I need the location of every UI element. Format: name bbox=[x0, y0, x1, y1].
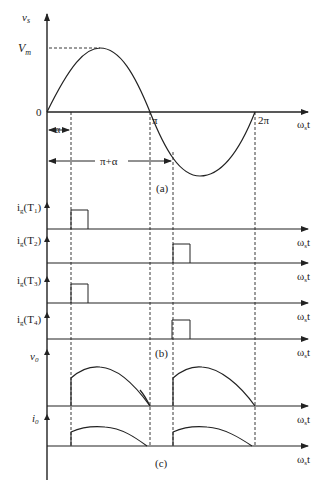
io-label: i0 bbox=[32, 412, 39, 426]
vo-waveform-2 bbox=[173, 367, 255, 406]
vm-label: Vm bbox=[18, 41, 31, 57]
pulse-t2 bbox=[173, 244, 190, 263]
ig-t3-label: ig(T3) bbox=[17, 274, 41, 288]
vs-label: vs bbox=[22, 11, 30, 25]
caption-c: (c) bbox=[155, 457, 168, 470]
caption-b: (b) bbox=[155, 347, 168, 360]
alpha-label: α bbox=[55, 124, 61, 135]
x-axis-label-b1: ωst bbox=[297, 236, 310, 250]
x-axis-label-a: ωst bbox=[297, 118, 310, 132]
caption-a: (a) bbox=[156, 182, 169, 195]
part-b-gate-pulses: ig(T1) ωst ig(T2) ωst ig(T3) ωst ig(T4) … bbox=[17, 201, 310, 360]
pi-label: π bbox=[152, 114, 158, 126]
pulse-t3 bbox=[71, 284, 88, 303]
x-axis-label-b3: ωst bbox=[297, 310, 310, 324]
x-axis-label-b2: ωst bbox=[297, 270, 310, 284]
pi-plus-alpha-label: π+α bbox=[100, 155, 118, 167]
pulse-t4 bbox=[172, 320, 190, 339]
vo-tail-left bbox=[140, 390, 150, 406]
vo-label: v0 bbox=[30, 350, 39, 364]
x-axis-label-b4: ωst bbox=[297, 346, 310, 360]
part-a-source-voltage: vs Vm 0 π 2π α π+α ωst (a) bbox=[18, 11, 310, 195]
two-pi-label: 2π bbox=[258, 114, 270, 126]
ig-t2-label: ig(T2) bbox=[17, 234, 41, 248]
ig-t1-label: ig(T1) bbox=[17, 201, 41, 215]
x-axis-label-c2: ωst bbox=[297, 453, 310, 467]
vo-waveform-1 bbox=[71, 367, 150, 406]
origin-label: 0 bbox=[36, 106, 42, 118]
ig-t4-label: ig(T4) bbox=[17, 313, 41, 327]
x-axis-label-c1: ωst bbox=[297, 413, 310, 427]
pulse-t1 bbox=[71, 210, 88, 229]
io-waveform-1 bbox=[71, 427, 147, 446]
thyristor-waveform-diagram: vs Vm 0 π 2π α π+α ωst (a) ig(T1) ωst ig… bbox=[0, 0, 328, 500]
io-waveform-2 bbox=[173, 427, 252, 446]
dashed-guides bbox=[49, 48, 255, 446]
part-c-load-waveforms: v0 ωst i0 ωst (c) bbox=[30, 349, 310, 470]
